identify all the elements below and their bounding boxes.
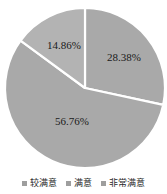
pie-chart-svg: 28.38%56.76%14.86% xyxy=(0,0,167,172)
legend-swatch-icon xyxy=(22,181,27,186)
legend-swatch-icon xyxy=(101,181,106,186)
legend-item[interactable]: 较满意 xyxy=(22,179,57,188)
pie-slice-label: 14.86% xyxy=(47,39,81,51)
legend-item[interactable]: 非常满意 xyxy=(101,179,145,188)
pie-slices-group xyxy=(5,8,165,168)
pie-slice-label: 56.76% xyxy=(55,115,89,127)
pie-plot-area: 28.38%56.76%14.86% xyxy=(0,0,167,172)
chart-legend: 较满意满意非常满意 xyxy=(0,174,167,192)
legend-item[interactable]: 满意 xyxy=(66,179,92,188)
legend-item-label: 满意 xyxy=(74,179,92,188)
legend-item-label: 较满意 xyxy=(30,179,57,188)
pie-chart-figure: 28.38%56.76%14.86% 较满意满意非常满意 xyxy=(0,0,167,194)
pie-slice-label: 28.38% xyxy=(107,51,141,63)
legend-swatch-icon xyxy=(66,181,71,186)
legend-item-label: 非常满意 xyxy=(109,179,145,188)
